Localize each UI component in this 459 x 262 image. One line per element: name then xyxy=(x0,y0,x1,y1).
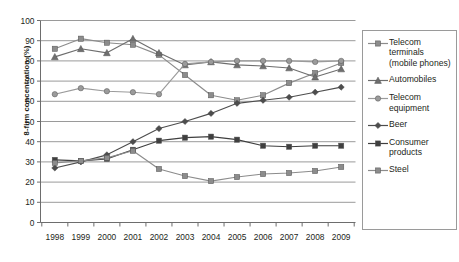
x-tick-label: 2007 xyxy=(280,232,299,242)
legend-item[interactable]: Automobiles xyxy=(367,74,452,86)
x-tick-label: 2005 xyxy=(228,232,247,242)
series-automobiles xyxy=(51,35,344,80)
x-axis: 1998199920002001200220032004200520062007… xyxy=(42,223,354,242)
y-tick-label: 60 xyxy=(25,96,35,106)
chart-figure: 8-firm concentration (%) 010203040506070… xyxy=(0,0,459,262)
legend-item[interactable]: Telecom terminals (mobile phones) xyxy=(367,37,452,68)
legend-marker-icon xyxy=(367,138,389,149)
y-tick-label: 20 xyxy=(25,177,35,187)
x-tick-label: 2002 xyxy=(150,232,169,242)
legend-marker-icon xyxy=(367,120,389,131)
legend-item[interactable]: Beer xyxy=(367,119,452,131)
legend-item-label: Automobiles xyxy=(389,74,436,84)
legend-item[interactable]: Consumer products xyxy=(367,137,452,158)
legend-item[interactable]: Telecom equipment xyxy=(367,92,452,113)
x-tick-label: 2000 xyxy=(98,232,117,242)
y-tick-label: 80 xyxy=(25,56,35,66)
x-tick-label: 1999 xyxy=(72,232,91,242)
legend-item-label: Telecom equipment xyxy=(389,92,452,113)
y-tick-label: 50 xyxy=(25,117,35,127)
legend-item-label: Beer xyxy=(389,119,407,129)
chart-legend: Telecom terminals (mobile phones)Automob… xyxy=(362,30,457,230)
x-tick-label: 2006 xyxy=(254,232,273,242)
series-steel xyxy=(52,148,344,184)
legend-marker-icon xyxy=(367,165,389,176)
y-tick-label: 40 xyxy=(25,137,35,147)
x-tick-label: 2001 xyxy=(124,232,143,242)
y-tick-label: 0 xyxy=(30,218,35,228)
y-tick-label: 100 xyxy=(21,16,35,26)
y-tick-label: 10 xyxy=(25,197,35,207)
legend-marker-icon xyxy=(367,93,389,104)
x-tick-label: 2003 xyxy=(176,232,195,242)
series-beer xyxy=(52,84,345,171)
series-telecom-equipment xyxy=(52,58,344,97)
legend-item-label: Steel xyxy=(389,164,409,174)
x-tick-label: 2004 xyxy=(202,232,221,242)
x-tick-label: 2008 xyxy=(306,232,325,242)
legend-marker-icon xyxy=(367,38,389,49)
legend-marker-icon xyxy=(367,75,389,86)
series-telecom-terminals-mobile-phones xyxy=(52,36,344,103)
y-tick-label: 70 xyxy=(25,76,35,86)
x-tick-label: 2009 xyxy=(332,232,351,242)
gridlines xyxy=(41,21,356,223)
x-tick-label: 1998 xyxy=(45,232,64,242)
y-tick-label: 30 xyxy=(25,157,35,167)
legend-item[interactable]: Steel xyxy=(367,164,452,176)
legend-item-label: Consumer products xyxy=(389,137,452,158)
legend-item-label: Telecom terminals (mobile phones) xyxy=(389,37,452,68)
y-axis: 0102030405060708090100 xyxy=(21,16,41,228)
y-tick-label: 90 xyxy=(25,36,35,46)
data-series-group xyxy=(51,35,344,183)
